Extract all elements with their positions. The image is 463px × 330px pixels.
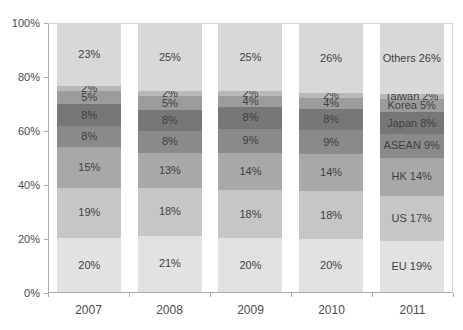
segment-hk-2009: 14% (218, 153, 282, 191)
segment-label: 14% (239, 166, 261, 177)
segment-label: ASEAN 9% (384, 140, 440, 151)
x-axis-label-2007: 2007 (48, 303, 129, 317)
segment-asean-2011: ASEAN 9% (380, 134, 444, 158)
segment-label: Korea 5% (388, 100, 436, 111)
segment-label: 5% (81, 92, 97, 103)
segment-eu-2009: 20% (218, 238, 282, 292)
y-tick-mark (44, 23, 48, 24)
segment-asean-2010: 9% (299, 130, 363, 154)
segment-label: 14% (320, 167, 342, 178)
segment-label: 9% (323, 137, 339, 148)
x-axis-label-2008: 2008 (129, 303, 210, 317)
segment-label: Others 26% (383, 53, 441, 64)
segment-others-2010: 26% (299, 24, 363, 93)
segment-label: 8% (243, 112, 259, 123)
chart-root: 20%19%15%8%8%5%2%23%21%18%13%8%8%5%2%25%… (0, 0, 463, 330)
segment-label: 21% (159, 258, 181, 269)
x-axis-label-2009: 2009 (210, 303, 291, 317)
segment-us-2008: 18% (138, 188, 202, 236)
segment-hk-2010: 14% (299, 154, 363, 191)
segment-hk-2011: HK 14% (380, 158, 444, 196)
segment-label: 13% (159, 165, 181, 176)
segment-label: 15% (78, 162, 100, 173)
x-tick-mark (48, 293, 49, 297)
segment-eu-2007: 20% (57, 238, 121, 292)
x-tick-mark (210, 293, 211, 297)
x-axis-label-2011: 2011 (372, 303, 453, 317)
x-tick-mark (129, 293, 130, 297)
segment-taiwan-2008: 2% (138, 91, 202, 96)
segment-label: 8% (162, 136, 178, 147)
segment-others-2007: 23% (57, 24, 121, 86)
y-axis-label-60: 60% (0, 125, 40, 137)
segment-us-2009: 18% (218, 190, 282, 238)
segment-label: 5% (162, 98, 178, 109)
category-slot-2010: 20%18%14%9%8%4%2%26% (291, 24, 372, 292)
segment-label: 20% (320, 260, 342, 271)
segment-others-2009: 25% (218, 24, 282, 91)
segment-us-2011: US 17% (380, 196, 444, 242)
segment-label: US 17% (391, 213, 431, 224)
segment-us-2010: 18% (299, 191, 363, 239)
y-axis-label-20: 20% (0, 233, 40, 245)
segment-label: Japan 8% (387, 118, 436, 129)
segment-label: 18% (239, 209, 261, 220)
y-tick-mark (44, 239, 48, 240)
segment-label: 9% (243, 135, 259, 146)
bars-container: 20%19%15%8%8%5%2%23%21%18%13%8%8%5%2%25%… (49, 24, 452, 292)
segment-eu-2011: EU 19% (380, 241, 444, 292)
segment-hk-2008: 13% (138, 153, 202, 188)
category-slot-2007: 20%19%15%8%8%5%2%23% (49, 24, 130, 292)
segment-asean-2008: 8% (138, 131, 202, 152)
segment-label: 18% (320, 210, 342, 221)
segment-label: 25% (239, 52, 261, 63)
category-slot-2009: 20%18%14%9%8%4%2%25% (210, 24, 291, 292)
y-tick-mark (44, 77, 48, 78)
stacked-bar-2008: 21%18%13%8%8%5%2%25% (138, 24, 202, 292)
segment-label: EU 19% (391, 261, 431, 272)
segment-label: 20% (239, 260, 261, 271)
segment-taiwan-2009: 2% (218, 91, 282, 96)
segment-label: 8% (81, 131, 97, 142)
segment-label: HK 14% (391, 171, 431, 182)
y-axis-label-80: 80% (0, 71, 40, 83)
segment-others-2011: Others 26% (380, 24, 444, 94)
segment-us-2007: 19% (57, 188, 121, 239)
segment-label: 20% (78, 260, 100, 271)
stacked-bar-2007: 20%19%15%8%8%5%2%23% (57, 24, 121, 292)
segment-japan-2007: 8% (57, 104, 121, 125)
y-tick-mark (44, 131, 48, 132)
segment-label: 19% (78, 207, 100, 218)
segment-label: 26% (320, 53, 342, 64)
y-axis-label-40: 40% (0, 179, 40, 191)
segment-japan-2009: 8% (218, 107, 282, 128)
segment-taiwan-2007: 2% (57, 86, 121, 91)
y-tick-mark (44, 185, 48, 186)
segment-asean-2007: 8% (57, 126, 121, 147)
stacked-bar-2010: 20%18%14%9%8%4%2%26% (299, 24, 363, 292)
segment-label: 8% (323, 114, 339, 125)
stacked-bar-2009: 20%18%14%9%8%4%2%25% (218, 24, 282, 292)
segment-others-2008: 25% (138, 24, 202, 91)
x-tick-mark (372, 293, 373, 297)
segment-eu-2010: 20% (299, 239, 363, 292)
segment-taiwan-2011: Taiwan 2% (380, 94, 444, 99)
segment-label: 25% (159, 52, 181, 63)
x-tick-mark (453, 293, 454, 297)
segment-taiwan-2010: 2% (299, 93, 363, 98)
y-axis-label-100: 100% (0, 17, 40, 29)
stacked-bar-2011: EU 19%US 17%HK 14%ASEAN 9%Japan 8%Korea … (380, 24, 444, 292)
segment-label: 23% (78, 49, 100, 60)
segment-japan-2011: Japan 8% (380, 112, 444, 133)
segment-label: 8% (81, 110, 97, 121)
category-slot-2008: 21%18%13%8%8%5%2%25% (130, 24, 211, 292)
segment-eu-2008: 21% (138, 236, 202, 292)
y-axis-label-0: 0% (0, 287, 40, 299)
segment-japan-2008: 8% (138, 110, 202, 131)
segment-hk-2007: 15% (57, 147, 121, 187)
segment-asean-2009: 9% (218, 129, 282, 153)
segment-label: 8% (162, 115, 178, 126)
plot-area: 20%19%15%8%8%5%2%23%21%18%13%8%8%5%2%25%… (48, 23, 453, 293)
segment-label: 18% (159, 206, 181, 217)
category-slot-2011: EU 19%US 17%HK 14%ASEAN 9%Japan 8%Korea … (371, 24, 452, 292)
